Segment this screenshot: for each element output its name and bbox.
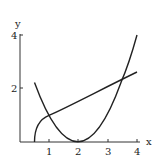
parabola-curve — [35, 35, 138, 142]
x-tick-1: 1 — [46, 146, 52, 157]
y-tick-4: 4 — [11, 30, 17, 41]
x-tick-2: 2 — [75, 146, 81, 157]
chart: x y 1 2 3 4 2 4 — [0, 0, 161, 162]
x-tick-3: 3 — [105, 146, 111, 157]
y-axis-label: y — [14, 18, 21, 29]
x-axis-label: x — [146, 136, 152, 147]
y-tick-2: 2 — [11, 83, 17, 94]
x-tick-4: 4 — [134, 146, 140, 157]
